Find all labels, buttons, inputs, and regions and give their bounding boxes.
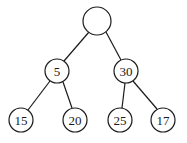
edge-5-20 xyxy=(63,82,72,108)
node-label: 30 xyxy=(120,64,133,79)
tree-node-17: 17 xyxy=(151,108,175,132)
edge-30-25 xyxy=(122,83,125,108)
node-label: 5 xyxy=(54,64,61,79)
edge-root-30 xyxy=(106,32,121,60)
binary-tree-diagram: 5 30 15 20 25 17 xyxy=(0,0,187,143)
edge-root-5 xyxy=(64,32,89,61)
node-label: 15 xyxy=(15,113,28,128)
edge-5-15 xyxy=(28,81,50,110)
tree-node-5: 5 xyxy=(45,59,69,83)
tree-node-20: 20 xyxy=(63,108,87,132)
tree-nodes: 5 30 15 20 25 17 xyxy=(9,7,175,132)
node-label: 17 xyxy=(157,113,171,128)
tree-node-15: 15 xyxy=(9,108,33,132)
tree-node-30: 30 xyxy=(114,59,138,83)
node-circle xyxy=(83,7,111,35)
edge-30-17 xyxy=(133,81,157,109)
node-label: 20 xyxy=(69,113,82,128)
tree-node-root xyxy=(83,7,111,35)
node-label: 25 xyxy=(114,113,127,128)
tree-node-25: 25 xyxy=(108,108,132,132)
